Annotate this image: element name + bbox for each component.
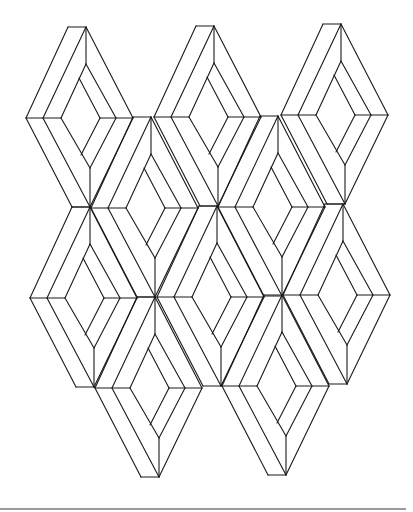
diamond-frame-unit [281,24,388,204]
diamond-frame-unit [95,297,202,477]
diamond-frame-unit [91,117,198,297]
diamond-frame-unit [218,116,325,296]
diamond-frame-unit [157,206,264,386]
diamond-frame-unit [283,204,390,384]
diamond-frame-unit [154,26,261,206]
pattern-canvas [0,0,413,512]
diamond-frame-unit [222,295,329,475]
bottom-divider-line [0,508,406,510]
diamond-frame-tessellation [26,24,390,477]
diamond-frame-unit [30,207,137,387]
diamond-frame-unit [26,27,133,207]
